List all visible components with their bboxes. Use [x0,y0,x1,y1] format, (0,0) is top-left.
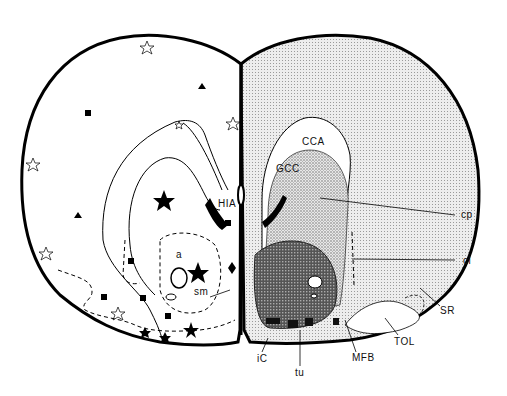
label-hia: HIA [218,199,236,209]
label-cp: cp [461,210,473,220]
label-cl: cl [463,256,471,266]
label-tol: TOL [394,337,415,347]
label-cca: CCA [302,137,325,147]
label-ic: iC [257,354,267,364]
label-sr: SR [440,306,455,316]
label-tu: tu [295,368,304,378]
label-a: a [176,250,182,260]
left-hemisphere [22,35,241,345]
label-gcc: GCC [276,164,300,174]
brain-section-diagram [0,0,507,396]
label-mfb: MFB [352,353,375,363]
label-sm: sm [194,287,208,297]
